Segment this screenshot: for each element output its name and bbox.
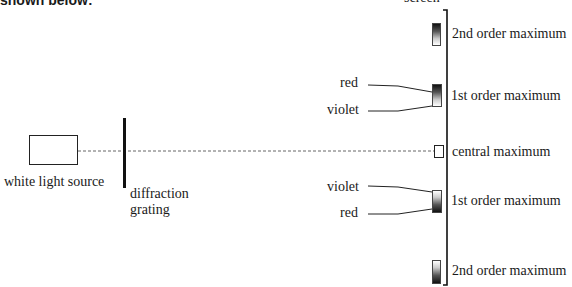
- grating-label-line2: grating: [130, 202, 170, 218]
- violet-bottom-label: violet: [327, 179, 359, 195]
- violet-top-label: violet: [327, 102, 359, 118]
- second-order-top-label: 2nd order maximum: [452, 26, 566, 42]
- leader-red-bottom: [368, 209, 432, 214]
- screen-label: screen: [404, 0, 440, 6]
- red-bottom-label: red: [340, 205, 358, 221]
- second-order-bottom-spectrum: [432, 260, 441, 284]
- first-order-bottom-label: 1st order maximum: [451, 193, 561, 209]
- second-order-top-spectrum: [432, 23, 441, 46]
- first-order-top-spectrum: [432, 84, 442, 107]
- source-label: white light source: [4, 174, 104, 190]
- leader-violet-bottom: [368, 186, 432, 192]
- grating-label-line1: diffraction: [130, 186, 189, 202]
- central-maximum-label: central maximum: [452, 144, 550, 160]
- leader-red-top: [368, 85, 432, 92]
- leader-violet-top: [368, 106, 432, 111]
- central-maximum-box: [434, 145, 444, 158]
- white-light-source-box: [29, 135, 78, 165]
- first-order-bottom-spectrum: [432, 190, 442, 213]
- first-order-top-label: 1st order maximum: [451, 88, 561, 104]
- second-order-bottom-label: 2nd order maximum: [452, 263, 566, 279]
- red-top-label: red: [340, 75, 358, 91]
